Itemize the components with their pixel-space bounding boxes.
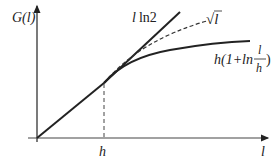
label-hlog: h(1+ln — [214, 52, 253, 68]
label-sqrt: √l — [206, 11, 218, 27]
h-tick-label: h — [99, 144, 106, 159]
x-axis-label: l — [261, 144, 265, 159]
label-hlog-den: h — [256, 61, 262, 75]
series-linear-segment — [37, 83, 104, 138]
diagram: G(l) l h lln2 √l h(1+ln l h ) — [0, 0, 280, 162]
label-lln2: lln2 — [132, 10, 157, 25]
label-hlog-num: l — [258, 43, 262, 57]
series-sqrt — [104, 21, 207, 83]
label-hlog-close: ) — [266, 52, 271, 68]
y-axis-label: G(l) — [12, 10, 36, 26]
